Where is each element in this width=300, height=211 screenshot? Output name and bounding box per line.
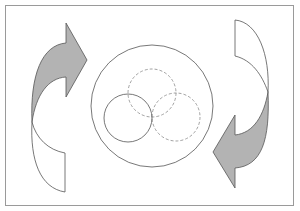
cycle-diagram [0,0,300,211]
